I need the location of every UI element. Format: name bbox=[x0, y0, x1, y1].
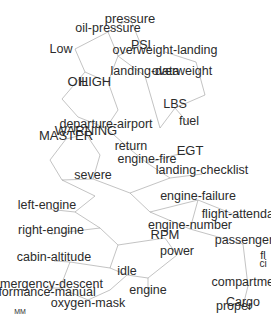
graph-node-label[interactable]: landing-checklist bbox=[156, 164, 248, 177]
graph-edge bbox=[75, 196, 95, 212]
graph-node-label[interactable]: right-engine bbox=[18, 224, 84, 237]
graph-node-label[interactable]: engine bbox=[129, 284, 167, 297]
graph-node-label[interactable]: overweight-landing bbox=[113, 44, 218, 57]
graph-canvas: pressureoil-pressurePSILowoverweight-lan… bbox=[0, 0, 271, 324]
graph-edge bbox=[75, 49, 85, 72]
graph-edge bbox=[148, 255, 177, 278]
graph-edge bbox=[50, 160, 62, 180]
graph-node-label[interactable]: Low bbox=[50, 43, 73, 56]
graph-edge bbox=[160, 108, 175, 128]
graph-edge bbox=[62, 99, 78, 117]
graph-node-label[interactable]: severe bbox=[74, 169, 112, 182]
graph-node-label[interactable]: ci bbox=[259, 259, 266, 269]
graph-edge bbox=[62, 180, 95, 196]
graph-node-label[interactable]: EGT bbox=[177, 144, 204, 157]
graph-node-label[interactable]: oxygen-mask bbox=[51, 297, 125, 310]
graph-node-label[interactable]: return bbox=[115, 140, 148, 153]
graph-node-label[interactable]: proper bbox=[216, 300, 252, 313]
graph-node-label[interactable]: left-engine bbox=[18, 199, 76, 212]
graph-node-label[interactable]: power bbox=[160, 245, 194, 258]
graph-node-label[interactable]: engine-failure bbox=[160, 190, 236, 203]
graph-node-label[interactable]: RPM bbox=[151, 228, 180, 241]
graph-node-label[interactable]: fuel bbox=[179, 115, 199, 128]
graph-edge bbox=[130, 193, 150, 212]
graph-node-label[interactable]: MM bbox=[14, 308, 26, 315]
graph-node-label[interactable]: passenger bbox=[215, 234, 271, 247]
graph-node-label[interactable]: compartment bbox=[212, 276, 271, 289]
graph-node-label[interactable]: oil-pressure bbox=[75, 22, 140, 35]
graph-node-label[interactable]: HIGH bbox=[79, 75, 112, 88]
graph-edge bbox=[100, 228, 118, 245]
graph-node-label[interactable]: MASTER bbox=[39, 129, 93, 142]
graph-node-label[interactable]: cabin-altitude bbox=[17, 251, 91, 264]
graph-node-label[interactable]: idle bbox=[117, 265, 136, 278]
graph-node-label[interactable]: overweight bbox=[152, 65, 212, 78]
graph-node-label[interactable]: LBS bbox=[163, 98, 187, 111]
